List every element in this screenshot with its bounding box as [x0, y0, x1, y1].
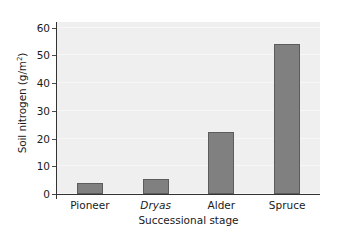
bar [274, 44, 300, 194]
x-axis-tick-labels: PioneerDryasAlderSpruce [57, 198, 320, 214]
bar [77, 183, 103, 194]
bar [143, 179, 169, 194]
y-axis-tick-label: 10 [26, 161, 50, 171]
bar-series [57, 22, 320, 194]
bar [208, 132, 234, 194]
y-axis-tick-label: 40 [26, 78, 50, 88]
y-axis-tick-label: 30 [26, 106, 50, 116]
y-axis-tick-label: 20 [26, 134, 50, 144]
bar-chart-figure: Soil nitrogen (g/m2) 0102030405060 Pione… [0, 0, 341, 242]
x-axis-tick-label: Dryas [140, 198, 171, 212]
x-axis-tick-label: Spruce [269, 198, 306, 212]
y-axis-tick-labels: 0102030405060 [26, 28, 50, 194]
y-axis-title-exponent: 2 [16, 57, 24, 61]
y-axis-tick-label: 0 [26, 189, 50, 199]
x-axis-title: Successional stage [57, 213, 320, 227]
x-axis-line [56, 194, 320, 195]
x-axis-tick-label: Pioneer [70, 198, 109, 212]
x-axis-tick-label: Alder [208, 198, 236, 212]
y-axis-tick-label: 60 [26, 23, 50, 33]
y-axis-tick-label: 50 [26, 50, 50, 60]
